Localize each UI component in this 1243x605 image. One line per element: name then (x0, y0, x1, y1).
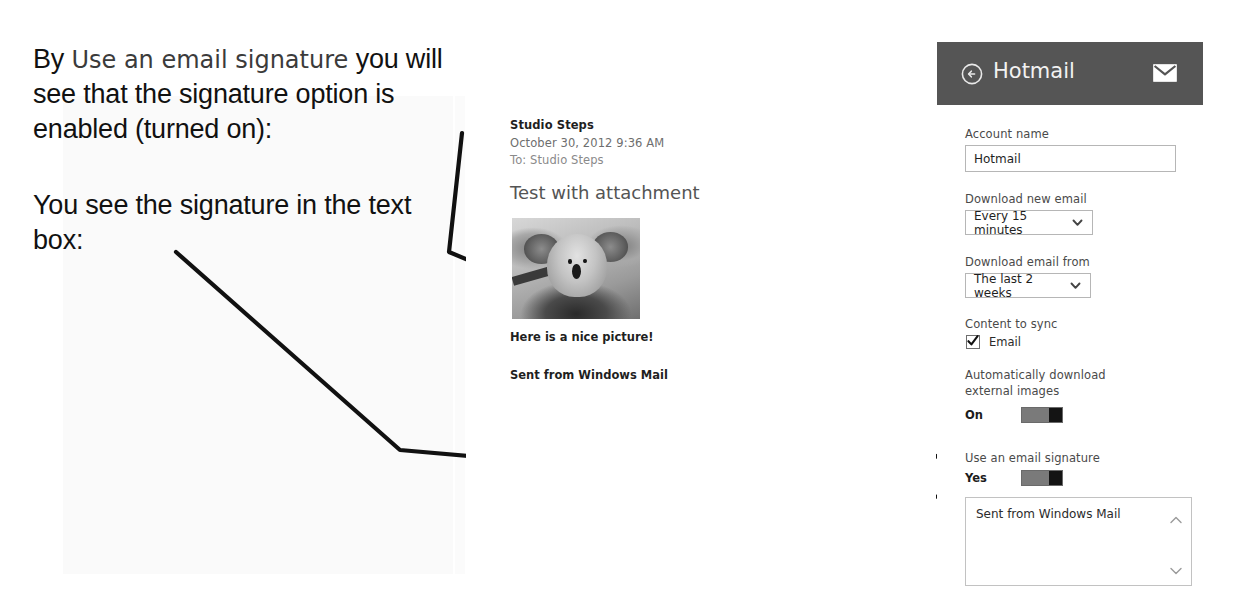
download-new-email-value: Every 15 minutes (974, 209, 1061, 237)
chevron-down-icon (1071, 216, 1084, 229)
content-to-sync-email-checkbox[interactable]: Email (966, 335, 1021, 349)
photo-koala-nose (572, 264, 581, 279)
flyout-header-bar: Hotmail (937, 42, 1203, 105)
download-email-from-value: The last 2 weeks (974, 272, 1059, 300)
scan-artifact-panel-left (63, 96, 453, 574)
email-sender-name: Studio Steps (510, 118, 840, 132)
annotation-text-signature-enabled: By Use an email signature you will see t… (33, 42, 453, 147)
back-arrow-icon[interactable] (961, 63, 983, 85)
email-timestamp: October 30, 2012 9:36 AM (510, 136, 840, 150)
photo-koala-eye-left (568, 259, 572, 263)
use-email-signature-toggle-row: Yes (965, 470, 1063, 486)
email-body-signature: Sent from Windows Mail (510, 368, 668, 382)
download-new-email-label: Download new email (965, 192, 1087, 208)
auto-download-images-toggle[interactable] (1021, 407, 1063, 423)
download-email-from-select[interactable]: The last 2 weeks (965, 273, 1091, 298)
hotmail-settings-flyout: Hotmail Account name Hotmail Download ne… (937, 42, 1203, 592)
download-new-email-select[interactable]: Every 15 minutes (965, 210, 1093, 235)
scan-artifact-panel-divider (455, 96, 465, 574)
koala-photo-attachment[interactable] (512, 218, 640, 319)
annotation-text-signature-textbox: You see the signature in the text box: (33, 188, 453, 258)
account-name-label: Account name (965, 127, 1049, 143)
account-name-value: Hotmail (974, 152, 1021, 166)
email-recipient: To: Studio Steps (510, 153, 840, 167)
email-body-caption: Here is a nice picture! (510, 330, 654, 344)
use-email-signature-state: Yes (965, 471, 1021, 485)
download-email-from-label: Download email from (965, 255, 1090, 271)
email-subject: Test with attachment (510, 182, 700, 203)
chevron-up-icon[interactable] (1169, 511, 1183, 521)
signature-textarea[interactable]: Sent from Windows Mail (965, 497, 1192, 586)
account-name-input[interactable]: Hotmail (965, 145, 1176, 172)
toggle-thumb (1049, 471, 1062, 485)
toggle-thumb (1049, 408, 1062, 422)
envelope-icon[interactable] (1153, 64, 1177, 82)
photo-koala-head (547, 234, 607, 297)
auto-download-images-state: On (965, 408, 1021, 422)
email-reading-pane: Studio Steps October 30, 2012 9:36 AM To… (466, 96, 936, 574)
flyout-settings-body: Account name Hotmail Download new email … (937, 105, 1203, 592)
annotation-quoted-setting: Use an email signature (71, 46, 348, 74)
checkbox-icon (966, 335, 980, 349)
use-email-signature-toggle[interactable] (1021, 470, 1063, 486)
flyout-title: Hotmail (993, 59, 1075, 83)
email-header-block: Studio Steps October 30, 2012 9:36 AM To… (510, 118, 840, 167)
content-to-sync-email-label: Email (989, 335, 1021, 349)
auto-download-images-label: Automatically download external images (965, 368, 1155, 399)
content-to-sync-label: Content to sync (965, 317, 1058, 333)
auto-download-images-toggle-row: On (965, 407, 1063, 423)
chevron-down-icon (1069, 279, 1082, 292)
annotation-lead-word: By (33, 44, 64, 74)
use-email-signature-label: Use an email signature (965, 451, 1100, 467)
chevron-down-icon[interactable] (1169, 562, 1183, 572)
annotation-block2-text: You see the signature in the text box: (33, 190, 411, 255)
annotated-screenshot-page: By Use an email signature you will see t… (0, 0, 1243, 605)
photo-koala-eye-right (583, 259, 587, 263)
signature-textarea-value: Sent from Windows Mail (976, 507, 1121, 521)
